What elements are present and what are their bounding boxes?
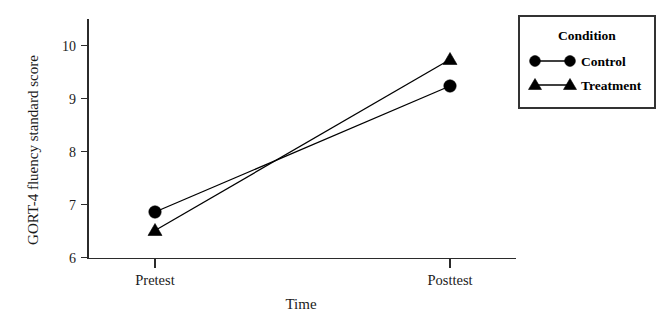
data-point-control-posttest xyxy=(444,80,456,92)
legend-title: Condition xyxy=(558,28,616,43)
legend-circle-marker-right xyxy=(565,56,576,67)
data-point-control-pretest xyxy=(149,206,161,218)
x-tick-label-posttest: Posttest xyxy=(427,272,472,288)
y-tick-label-8: 8 xyxy=(69,145,76,160)
x-tick-label-pretest: Pretest xyxy=(135,272,174,288)
y-tick-label-10: 10 xyxy=(62,39,76,54)
y-tick-label-6: 6 xyxy=(69,251,76,266)
chart-container: GORT-4 fluency standard score 10 9 8 7 6… xyxy=(0,0,665,322)
line-chart: GORT-4 fluency standard score 10 9 8 7 6… xyxy=(0,0,665,322)
legend-label-treatment: Treatment xyxy=(581,78,642,93)
series-line-treatment xyxy=(155,60,450,231)
y-axis-title: GORT-4 fluency standard score xyxy=(25,55,41,245)
data-point-treatment-pretest xyxy=(148,224,162,236)
legend-circle-marker-left xyxy=(530,56,541,67)
x-axis-title: Time xyxy=(285,296,316,312)
y-tick-label-7: 7 xyxy=(69,198,76,213)
legend: Condition Control Treatment xyxy=(519,16,655,108)
series-line-control xyxy=(155,86,450,212)
legend-label-control: Control xyxy=(581,54,626,69)
data-point-treatment-posttest xyxy=(443,53,457,65)
y-tick-group xyxy=(81,46,88,258)
y-tick-label-9: 9 xyxy=(69,92,76,107)
